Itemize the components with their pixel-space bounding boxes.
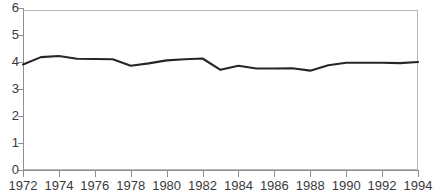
data-series-line — [23, 56, 418, 71]
line-chart: 0123456 19721974197619781980198219841986… — [0, 0, 440, 195]
data-line-layer — [0, 0, 440, 195]
